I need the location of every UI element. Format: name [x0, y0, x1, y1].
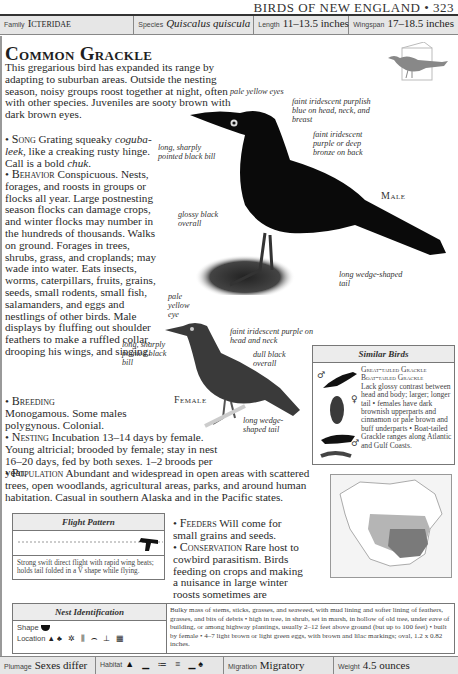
weight-value: 4.5 ounces	[363, 659, 410, 671]
breeding-text: Monogamous. Some males polygynous. Colon…	[5, 407, 127, 431]
population-section: • Population Abundant and widespread in …	[5, 468, 310, 503]
female-head-text: faint iridescent purple on head and neck	[230, 327, 313, 345]
plumage-cell: Plumage Sexes differ	[0, 657, 96, 674]
male-eye-annotation: pale yellow eyes	[230, 87, 284, 96]
male-tail-text: long wedge-shaped tail	[339, 270, 402, 288]
song-section: • Song Grating squeaky coguba-leek, like…	[5, 134, 153, 169]
breeding-section: • Breeding Monogamous. Some males polygy…	[5, 396, 155, 431]
bird-habitat-book-icon	[386, 42, 452, 82]
nest-identification-box: Nest Identification Shape Location ▲♣ ✲ …	[12, 603, 167, 654]
female-tail-text: long wedge-shaped tail	[243, 416, 283, 434]
nest-shape-row: Shape	[13, 621, 166, 634]
footer-bar: Plumage Sexes differ Habitat ▲ ▁ ≔ ≡ ▁♠ …	[0, 656, 458, 674]
migration-label: Migration	[228, 663, 257, 670]
habitat-label: Habitat	[100, 661, 122, 668]
flight-pattern-title: Flight Pattern	[13, 514, 164, 531]
flight-path-diagram	[13, 531, 164, 555]
similar-birds-thumbnails: ♂ ♀ ♂	[317, 368, 359, 463]
similar-birds-box: Similar Birds ♂ ♀ ♂ Great-tailed Grackle…	[312, 345, 455, 465]
male-label: Male	[381, 190, 406, 201]
female-head-annotation: faint iridescent purple on head and neck	[230, 327, 320, 345]
svg-text:♀: ♀	[351, 394, 358, 404]
female-eye-text: pale yellow eye	[168, 292, 189, 319]
plumage-label: Plumage	[4, 663, 32, 670]
song-text-c: .	[88, 157, 91, 169]
cup-nest-icon	[41, 625, 50, 631]
family-cell: Family Icteridae	[0, 16, 134, 34]
similar-birds-text: Lack glossy contrast between head and bo…	[361, 383, 457, 450]
behavior-text: Conspicuous. Nests, forages, and roosts …	[5, 168, 156, 357]
female-tail-annotation: long wedge-shaped tail	[243, 416, 288, 434]
nest-shape-label: Shape	[17, 623, 39, 632]
header-bar: Family Icteridae Species Quiscalus quisc…	[0, 16, 458, 35]
habitat-cell: Habitat ▲ ▁ ≔ ≡ ▁♠	[96, 657, 224, 674]
wingspan-cell: Wingspan 17–18.5 inches	[349, 16, 458, 34]
male-bill-annotation: long, sharply pointed black bill	[158, 143, 222, 161]
female-overall-text: dull black overall	[253, 350, 286, 368]
habitat-icons: ▲ ▁ ≔ ≡ ▁♠	[125, 659, 206, 669]
male-tail-annotation: long wedge-shaped tail	[339, 270, 409, 288]
species-value: Quiscalus quiscula	[166, 17, 250, 29]
svg-text:♂: ♂	[317, 370, 325, 380]
length-cell: Length 11–13.5 inches	[254, 16, 349, 34]
nest-identification-title: Nest Identification	[13, 604, 166, 621]
weight-cell: Weight 4.5 ounces	[334, 657, 458, 674]
weight-label: Weight	[338, 663, 360, 670]
length-label: Length	[258, 21, 279, 28]
family-value: Icteridae	[28, 17, 71, 29]
song-text: Grating squeaky	[39, 133, 113, 145]
female-label: Female	[174, 394, 207, 405]
nest-description-box: Bulky mass of stems, sticks, grasses, an…	[166, 603, 455, 654]
female-eye-annotation: pale yellow eye	[168, 292, 198, 319]
female-bill-annotation: long, sharply pointed black bill	[122, 340, 170, 367]
page-edge-shade	[0, 36, 2, 656]
behavior-section: • Behavior Conspicuous. Nests, forages, …	[5, 169, 160, 358]
nest-location-icons: ▲♣ ✲ ⫼ ⌒ ⊥ ▦	[47, 634, 126, 643]
migration-value: Migratory	[260, 659, 305, 671]
male-overall-annotation: glossy black overall	[178, 210, 228, 228]
similar-birds-title: Similar Birds	[313, 346, 454, 363]
plumage-value: Sexes differ	[35, 659, 88, 671]
species-cell: Species Quiscalus quiscula	[134, 16, 254, 34]
species-label: Species	[138, 21, 163, 28]
similar-birds-description: Great-tailed Grackle Boat-tailed Grackle…	[361, 366, 457, 450]
song-call-chuk: chuk	[67, 157, 88, 169]
male-back-text: faint iridescent purple or deep bronze o…	[313, 130, 363, 157]
flight-pattern-box: Flight Pattern Strong swift direct fligh…	[12, 513, 165, 580]
male-eye-text: pale yellow eyes	[230, 87, 284, 96]
female-overall-annotation: dull black overall	[253, 350, 303, 368]
male-head-annotation: faint iridescent purplish blue on head, …	[292, 97, 372, 124]
female-bill-text: long, sharply pointed black bill	[122, 340, 166, 367]
family-label: Family	[4, 21, 25, 28]
male-overall-text: glossy black overall	[178, 210, 218, 228]
range-map	[330, 474, 452, 578]
feeders-section: • Feeders Will come for small grains and…	[173, 518, 303, 542]
nest-location-label: Location	[17, 634, 45, 643]
male-back-annotation: faint iridescent purple or deep bronze o…	[313, 130, 373, 157]
nest-location-row: Location ▲♣ ✲ ⫼ ⌒ ⊥ ▦	[13, 634, 166, 644]
male-bill-text: long, sharply pointed black bill	[158, 143, 215, 161]
male-head-text: faint iridescent purplish blue on head, …	[292, 97, 371, 124]
wingspan-value: 17–18.5 inches	[387, 17, 454, 29]
migration-cell: Migration Migratory	[224, 657, 334, 674]
length-value: 11–13.5 inches	[283, 17, 349, 29]
wingspan-label: Wingspan	[353, 21, 384, 28]
flight-pattern-text: Strong swift direct flight with rapid wi…	[13, 555, 164, 579]
